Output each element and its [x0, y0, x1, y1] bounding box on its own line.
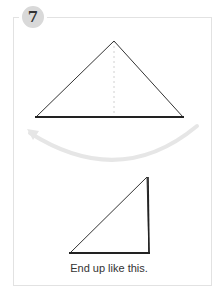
- folding-diagram: [0, 0, 218, 289]
- fold-arrow-icon: [27, 126, 197, 160]
- bottom-triangle: [69, 177, 150, 253]
- top-triangle: [35, 41, 184, 117]
- caption-text: End up like this.: [0, 262, 218, 274]
